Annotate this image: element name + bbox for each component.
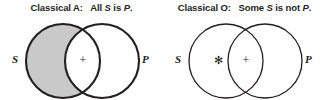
panel-title-subject: S	[267, 2, 273, 13]
panel-classical-o: Classical O: Some S is not P. S P ✻ +	[163, 0, 326, 100]
panel-title-classical-o: Classical O: Some S is not P.	[163, 2, 326, 13]
panel-title-quantifier: Some	[238, 2, 263, 13]
panel-title-copula: is	[113, 2, 121, 13]
panel-title-subject: S	[105, 2, 111, 13]
panel-title-prefix: Classical O:	[178, 2, 231, 13]
panel-title-copula: is not	[275, 2, 300, 13]
predicate-label: P	[142, 54, 149, 65]
panel-title-quantifier: All	[90, 2, 102, 13]
subject-only-mark-asterisk: ✻	[211, 55, 225, 66]
subject-label: S	[12, 54, 18, 65]
panel-title-period: .	[130, 2, 133, 13]
panel-title-period: .	[309, 2, 312, 13]
intersection-mark-plus: +	[76, 54, 90, 66]
venn-diagram-figure: Classical A: All S is P.	[0, 0, 326, 100]
panel-title-prefix: Classical A:	[31, 2, 83, 13]
panel-classical-a: Classical A: All S is P.	[0, 0, 163, 100]
predicate-label: P	[305, 54, 312, 65]
intersection-mark-plus: +	[239, 54, 253, 66]
subject-label: S	[175, 54, 181, 65]
panel-title-classical-a: Classical A: All S is P.	[0, 2, 163, 13]
